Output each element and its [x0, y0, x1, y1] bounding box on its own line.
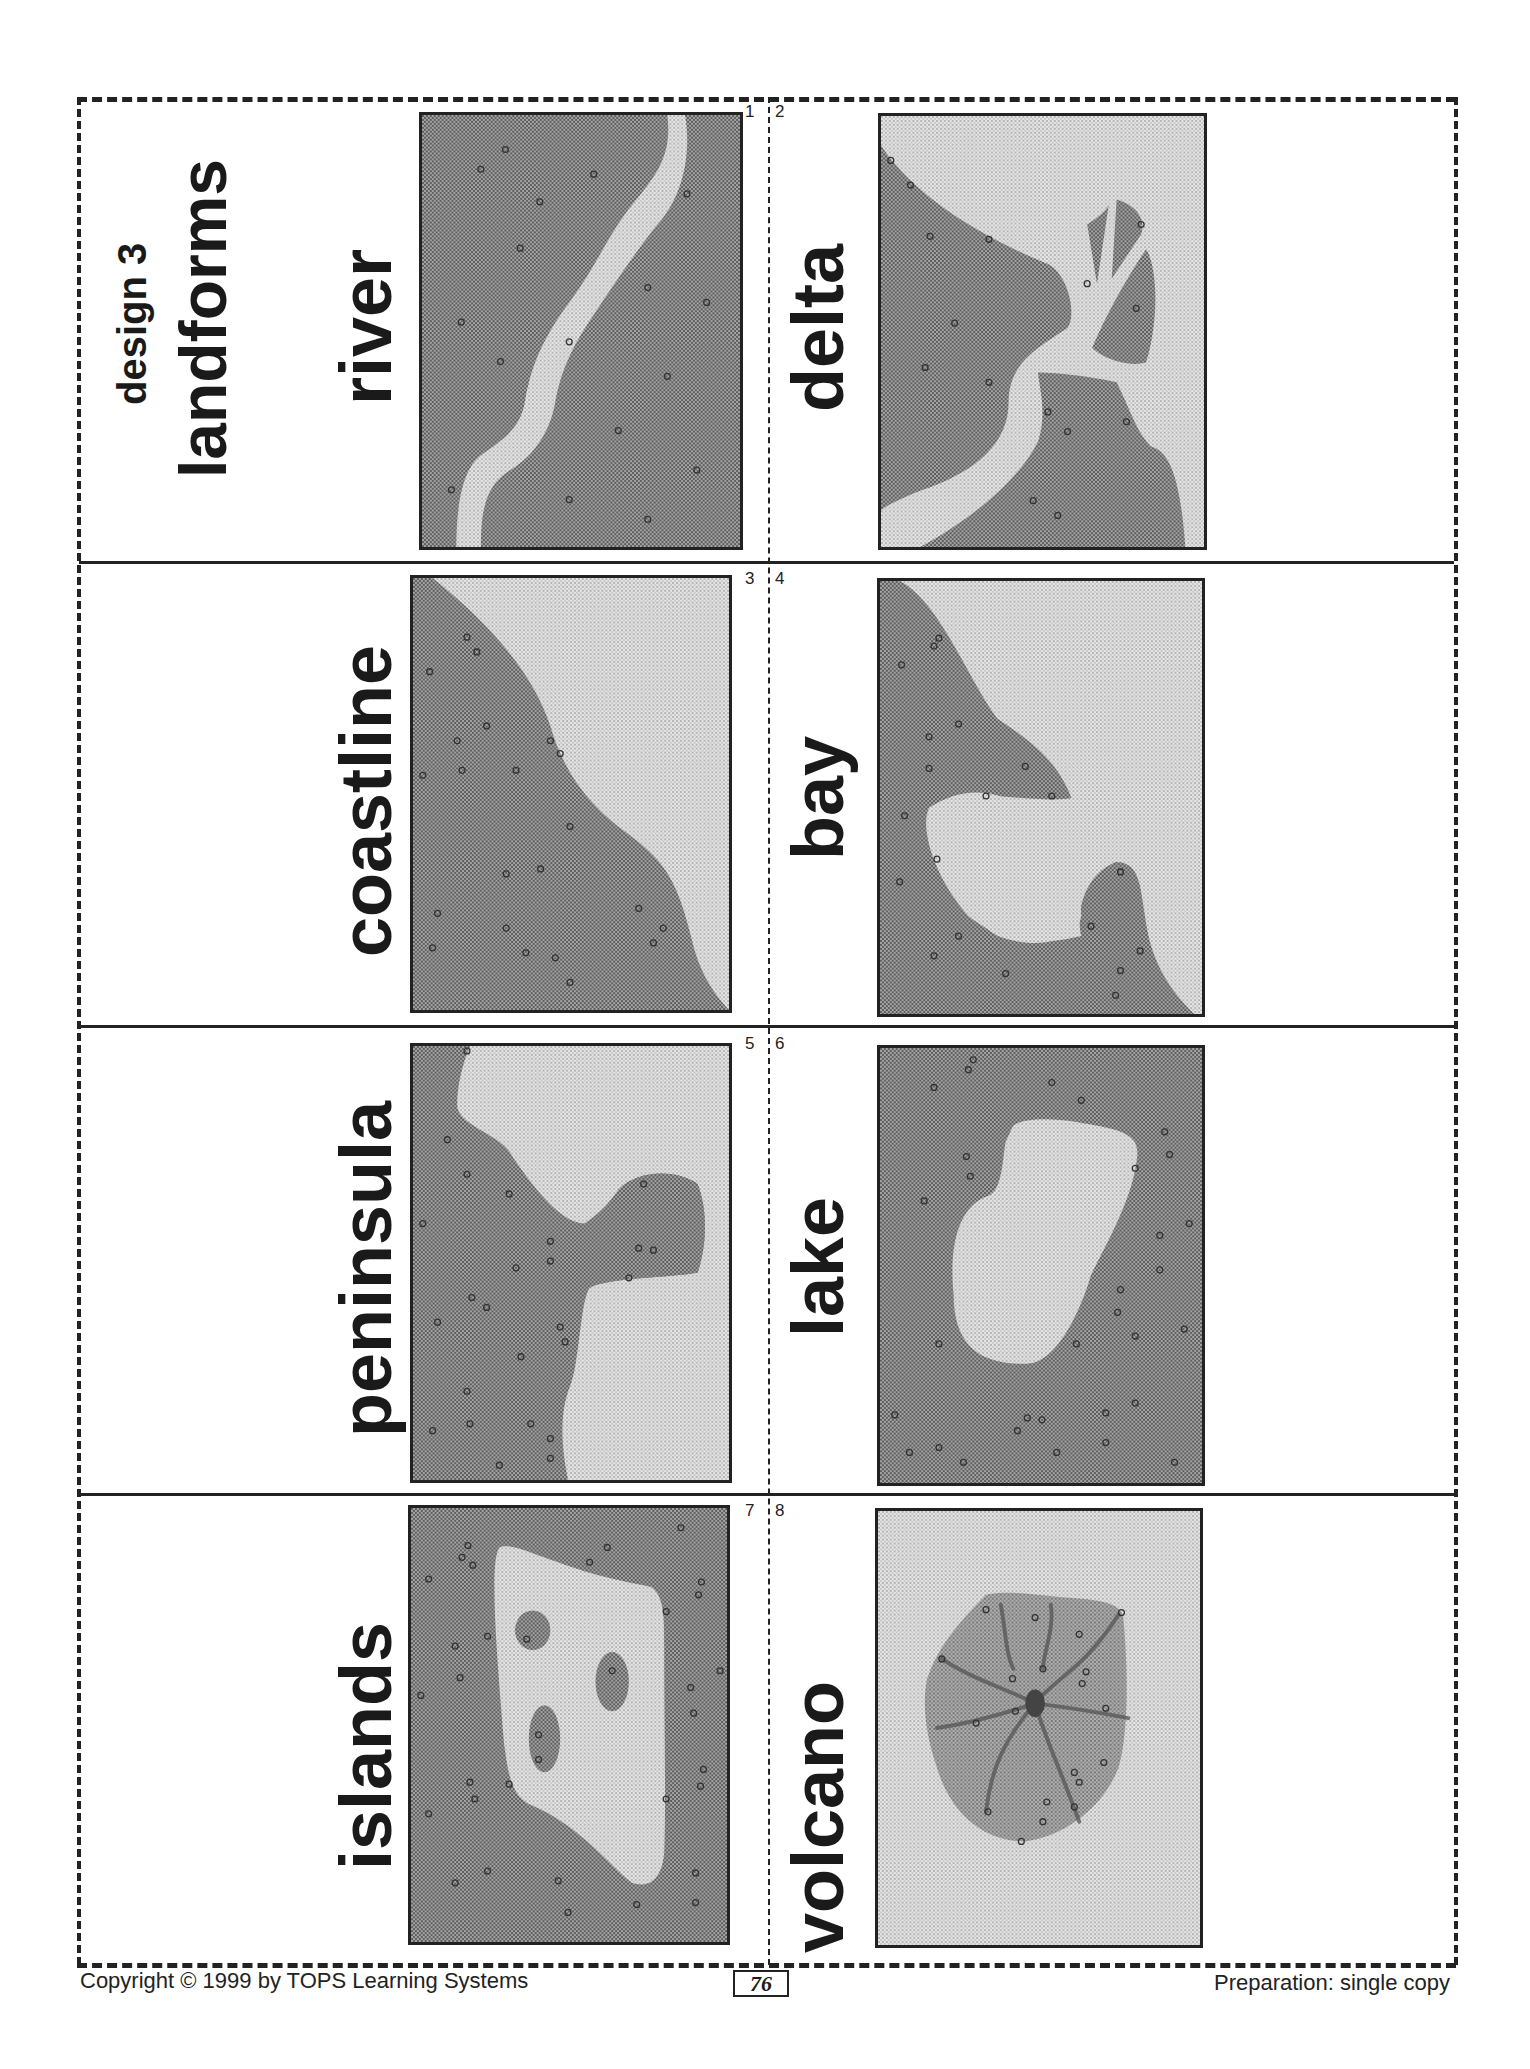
card-label-lake: lake: [782, 1197, 854, 1337]
design-label: design 3: [112, 243, 152, 405]
card-number: 6: [775, 1035, 784, 1052]
cut-border-right: [1454, 97, 1458, 1965]
cut-border-left: [77, 97, 81, 1965]
river-illustration: [419, 112, 743, 550]
page-number: 76: [733, 1970, 789, 1997]
lake-illustration: [877, 1045, 1205, 1486]
islands-illustration: [408, 1505, 730, 1945]
card-label-river: river: [330, 249, 402, 405]
page-title: landforms: [170, 159, 236, 478]
peninsula-illustration: [410, 1043, 732, 1483]
card-label-bay: bay: [782, 736, 854, 860]
card-number: 1: [745, 103, 754, 120]
card-number: 8: [775, 1502, 784, 1519]
delta-illustration: [878, 113, 1207, 550]
card-number: 2: [775, 103, 784, 120]
coastline-illustration: [410, 575, 732, 1013]
row-divider-3: [79, 1493, 1454, 1496]
bay-illustration: [877, 578, 1205, 1017]
card-number: 4: [775, 570, 784, 587]
card-label-volcano: volcano: [782, 1681, 854, 1953]
preparation-note: Preparation: single copy: [1214, 1970, 1450, 1996]
copyright-text: Copyright © 1999 by TOPS Learning System…: [80, 1968, 528, 1994]
row-divider-1: [79, 561, 1454, 564]
center-fold-line: [768, 97, 770, 1965]
card-label-coastline: coastline: [330, 645, 402, 957]
row-divider-2: [79, 1025, 1454, 1028]
card-label-peninsula: peninsula: [330, 1101, 402, 1437]
cut-border-top: [77, 97, 1456, 102]
card-label-delta: delta: [782, 244, 854, 412]
card-label-islands: islands: [330, 1622, 402, 1870]
card-number: 5: [745, 1035, 754, 1052]
card-number: 3: [745, 570, 754, 587]
volcano-illustration: [875, 1508, 1203, 1948]
card-number: 7: [745, 1502, 754, 1519]
